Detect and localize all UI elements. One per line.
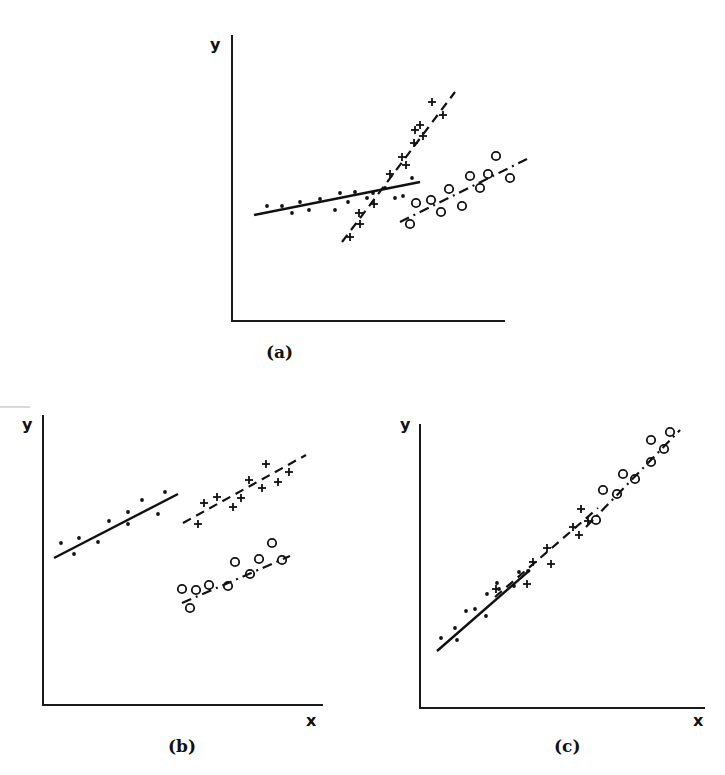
series-group-circles [400,152,527,228]
dot-marker [338,191,342,195]
plus-marker [356,220,364,228]
plus-marker [523,580,531,588]
dot-marker [96,540,100,544]
dot-marker [484,614,488,618]
dot-marker [401,194,405,198]
dot-marker [439,636,443,640]
circle-marker [492,152,500,160]
circle-marker [205,581,213,589]
plus-marker [547,560,555,568]
dot-marker [410,176,414,180]
plus-marker [410,139,418,147]
plus-marker [575,531,583,539]
dot-marker [126,510,130,514]
panel-caption: (b) [168,736,196,756]
circle-marker [458,202,466,210]
dot-marker [307,208,311,212]
dot-marker [290,211,294,215]
series-group-plus [342,92,455,242]
series-group-circles [178,539,290,612]
dot-marker [126,522,130,526]
dot-marker [464,609,468,613]
dot-marker [298,200,302,204]
plus-marker [428,98,436,106]
plus-marker [543,544,551,552]
y-axis-label: y [400,415,411,434]
plus-marker [398,153,406,161]
dot-marker [72,552,76,556]
plus-marker [577,505,585,513]
circle-marker [427,196,435,204]
plus-marker [274,478,282,486]
dot-marker [365,196,369,200]
plus-marker [346,233,354,241]
y-axis-label: y [210,35,221,54]
dot-marker [353,190,357,194]
dot-marker [371,191,375,195]
y-axis-label: y [22,415,33,434]
plus-marker [439,111,447,119]
dot-marker [140,498,144,502]
plus-marker [492,585,500,593]
fit-line-dashdot [182,556,290,603]
figure-canvas: y(a) yx(b) yx(c) [0,0,725,775]
circle-marker [619,470,627,478]
circle-marker [466,172,474,180]
circle-marker [406,220,414,228]
axes-frame [232,35,505,321]
panel-caption: (a) [266,342,293,362]
circle-marker [178,585,186,593]
dot-marker [333,208,337,212]
circle-marker [647,436,655,444]
dot-marker [393,196,397,200]
dot-marker [517,570,521,574]
dot-marker [59,541,63,545]
plus-marker [285,468,293,476]
circle-marker [506,174,514,182]
circle-marker [437,208,445,216]
fit-line-dashed [342,92,455,242]
plus-marker [419,132,427,140]
dot-marker [485,592,489,596]
dot-marker [526,569,530,573]
series-group-plus [492,505,598,597]
plus-marker [569,523,577,531]
plus-marker [229,503,237,511]
circle-marker [192,586,200,594]
circle-marker [599,486,607,494]
plus-marker [200,499,208,507]
plus-marker [237,494,245,502]
dot-marker [495,581,499,585]
circle-marker [445,185,453,193]
dot-marker [163,490,167,494]
plus-marker [258,484,266,492]
plus-marker [416,121,424,129]
x-axis-label: x [693,711,704,730]
dot-marker [156,512,160,516]
dot-marker [346,200,350,204]
plus-marker [411,126,419,134]
dot-marker [280,204,284,208]
axes-frame [420,424,705,708]
circle-marker [666,428,674,436]
panel-a-scatter-plot: y(a) [210,35,527,362]
axes-frame [43,415,323,705]
fit-line-dashdot [400,159,527,222]
series-group-dots [437,569,530,651]
circle-marker [268,539,276,547]
fit-line-solid [54,494,178,558]
fit-line-solid [437,570,530,651]
dot-marker [512,584,516,588]
circle-marker [186,604,194,612]
plus-marker [386,170,394,178]
dot-marker [453,626,457,630]
fit-line-dashed [495,508,598,597]
dot-marker [473,607,477,611]
plus-marker [262,460,270,468]
panel-c-scatter-plot: yx(c) [400,415,705,756]
series-group-dots [54,490,178,558]
plus-marker [213,493,221,501]
dot-marker [265,204,269,208]
plus-marker [245,476,253,484]
plus-marker [370,200,378,208]
